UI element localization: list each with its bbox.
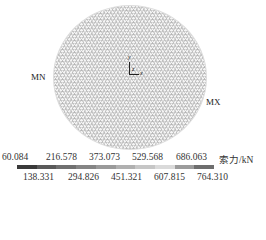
legend-tick: 529.568 (132, 152, 163, 162)
legend-tick: 686.063 (176, 152, 207, 162)
legend-tick: 607.815 (154, 172, 185, 182)
legend-tick: 294.826 (68, 172, 99, 182)
legend-unit-label: 索力/kN (219, 152, 253, 166)
legend-tick: 451.321 (111, 172, 142, 182)
legend-tick: 138.331 (23, 172, 54, 182)
legend-top-ticks: 60.084 216.578 373.073 529.568 686.063 索… (0, 152, 266, 164)
axis-y-label: y (128, 54, 131, 60)
axis-x-label: x (140, 70, 143, 76)
legend-tick: 60.084 (2, 152, 28, 162)
legend-tick: 764.310 (197, 172, 228, 182)
legend-tick: 216.578 (46, 152, 77, 162)
legend-tick: 373.073 (89, 152, 120, 162)
max-marker-label: MX (206, 97, 221, 107)
coordinate-axes-icon: y z x (125, 57, 149, 81)
min-marker-label: MN (31, 72, 46, 82)
axis-z-label: z (132, 66, 134, 72)
legend-bottom-ticks: 138.331 294.826 451.321 607.815 764.310 (0, 172, 266, 184)
legend-color-bar (17, 165, 214, 169)
